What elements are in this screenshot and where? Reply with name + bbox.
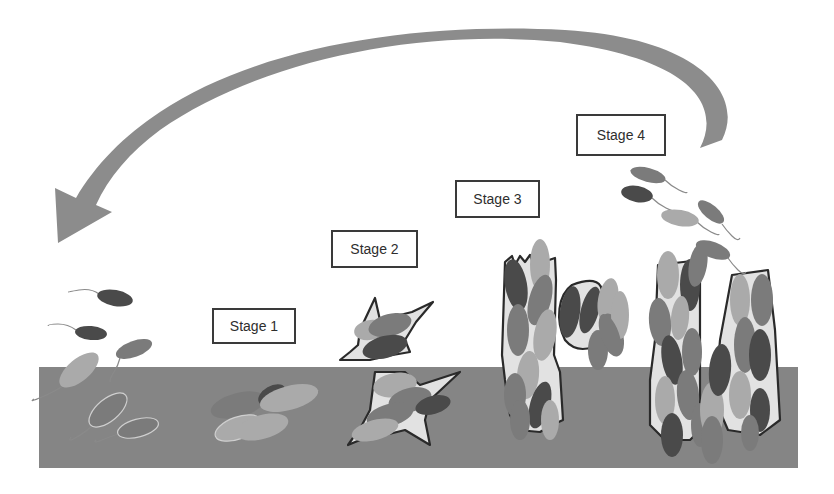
- stage-4-label: Stage 4: [576, 114, 666, 156]
- bacterium: [657, 251, 679, 299]
- flagellum: [652, 198, 674, 211]
- stage-2-label: Stage 2: [331, 230, 418, 268]
- bacterium: [629, 164, 667, 187]
- stage-1-label-text: Stage 1: [230, 318, 278, 334]
- flagellum: [69, 290, 99, 295]
- bacterium: [682, 328, 702, 376]
- flagellum: [722, 224, 740, 240]
- stage-3-label-text: Stage 3: [473, 191, 521, 207]
- bacterium: [729, 371, 751, 419]
- bacterium: [661, 413, 683, 457]
- bacterium: [74, 325, 107, 342]
- bacterium: [751, 274, 773, 326]
- bacterium: [510, 400, 530, 440]
- bacterium: [694, 196, 728, 227]
- bacterium: [96, 287, 134, 309]
- bacterium: [741, 415, 759, 451]
- bacterium: [507, 304, 529, 356]
- flagellum: [665, 180, 687, 193]
- bacterium: [749, 329, 771, 381]
- stage-1-label: Stage 1: [212, 308, 296, 344]
- stage-2-label-text: Stage 2: [350, 241, 398, 257]
- bacterium: [541, 400, 559, 440]
- bacterium: [701, 416, 723, 464]
- stage-3-label: Stage 3: [455, 180, 540, 218]
- flagellum: [48, 324, 76, 330]
- stage-4-label-text: Stage 4: [597, 127, 645, 143]
- bacterium: [660, 207, 700, 229]
- flagellum: [728, 258, 746, 274]
- bacterium: [620, 183, 654, 204]
- flagellum: [697, 222, 719, 235]
